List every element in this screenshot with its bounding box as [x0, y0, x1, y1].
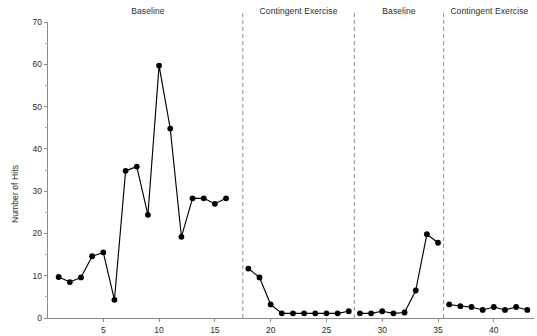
data-point-marker	[268, 302, 274, 308]
data-point-marker	[379, 308, 385, 314]
data-point-marker	[513, 304, 519, 310]
data-point-marker	[190, 195, 196, 201]
data-point-marker	[245, 266, 251, 272]
plot-area	[0, 0, 537, 336]
data-point-marker	[290, 310, 296, 316]
phase-divider-group	[243, 13, 444, 318]
data-point-marker	[413, 288, 419, 294]
data-point-marker	[257, 275, 263, 281]
series-line	[360, 234, 438, 313]
data-point-marker	[524, 307, 530, 313]
axes-group	[44, 22, 535, 322]
data-point-marker	[391, 310, 397, 316]
data-point-marker	[424, 231, 430, 237]
data-series-group	[56, 63, 530, 317]
data-point-marker	[301, 310, 307, 316]
data-point-marker	[357, 310, 363, 316]
data-point-marker	[312, 310, 318, 316]
data-point-marker	[112, 297, 118, 303]
data-point-marker	[167, 126, 173, 132]
data-point-marker	[279, 310, 285, 316]
data-point-marker	[89, 253, 95, 259]
data-point-marker	[435, 240, 441, 246]
data-point-marker	[134, 164, 140, 170]
series-line	[59, 66, 226, 300]
data-point-marker	[212, 201, 218, 207]
series-line	[248, 269, 348, 314]
data-point-marker	[335, 310, 341, 316]
data-point-marker	[123, 168, 129, 174]
data-point-marker	[446, 302, 452, 308]
data-point-marker	[67, 279, 73, 285]
data-point-marker	[56, 274, 62, 280]
data-point-marker	[502, 307, 508, 313]
chart-container: Number of Hits BaselineContingent Exerci…	[0, 0, 537, 336]
data-point-marker	[145, 212, 151, 218]
data-point-marker	[156, 63, 162, 69]
data-point-marker	[201, 195, 207, 201]
data-point-marker	[346, 308, 352, 314]
data-point-marker	[469, 304, 475, 310]
data-point-marker	[324, 310, 330, 316]
data-point-marker	[78, 275, 84, 281]
data-point-marker	[480, 307, 486, 313]
data-point-marker	[491, 304, 497, 310]
data-point-marker	[179, 234, 185, 240]
data-point-marker	[223, 195, 229, 201]
data-point-marker	[368, 310, 374, 316]
data-point-marker	[100, 250, 106, 256]
data-point-marker	[457, 303, 463, 309]
data-point-marker	[402, 310, 408, 316]
